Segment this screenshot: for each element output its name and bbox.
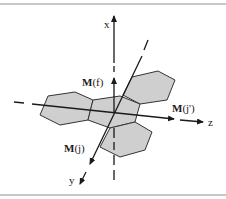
hexagon-group [40,71,175,157]
mj-label: M(j) [64,142,85,155]
y-axis-label: y [69,174,75,186]
diagram-figure: x z y M(f) M(j') M(j) [0,0,226,199]
mf-label-rest: (f) [92,76,103,89]
mj-label-rest: (j) [74,142,85,155]
mj-label-bold: M [64,142,75,154]
hexagon-left [40,92,93,125]
mf-label-bold: M [82,76,93,88]
z-axis-label: z [208,116,213,128]
mf-label: M(f) [82,76,104,89]
hexagon-top-right [123,71,175,104]
mjp-label-bold: M [172,102,183,114]
mjp-label: M(j') [172,102,195,115]
x-axis-label: x [104,18,110,30]
mjp-label-rest: (j') [182,102,195,115]
